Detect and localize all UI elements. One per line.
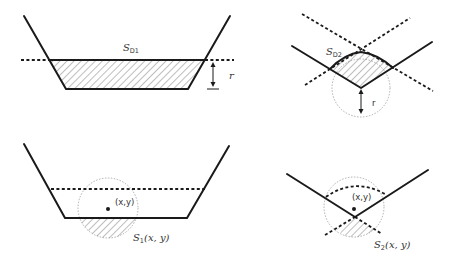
point-label-2: (x,y): [352, 192, 371, 202]
point-label: (x,y): [115, 197, 134, 207]
sd2-label: SD2: [326, 46, 342, 59]
panel-bottom-left: (x,y) S1(x, y): [24, 144, 229, 245]
r-dimension-arrow-2: [359, 89, 364, 114]
r-label-2: r: [372, 98, 376, 108]
diagram-canvas: r SD1 r SD2 (x,y) S1(x, y): [0, 0, 453, 262]
r-label: r: [229, 70, 235, 81]
panel-top-left: r SD1: [21, 16, 235, 89]
center-point: [106, 207, 110, 211]
hatched-region-sd1: [49, 60, 205, 89]
s1-label: S1(x, y): [133, 232, 170, 245]
r-dimension-arrow: [207, 62, 219, 89]
s2-label: S2(x, y): [374, 239, 411, 252]
center-point-2: [352, 207, 356, 211]
panel-top-right: r SD2: [292, 14, 433, 117]
sd1-label: SD1: [123, 42, 139, 55]
panel-bottom-right: (x,y) S2(x, y): [287, 170, 428, 252]
